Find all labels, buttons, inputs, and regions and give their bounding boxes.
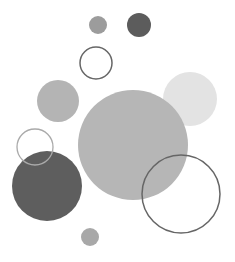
dark-big-left-circle xyxy=(12,151,82,221)
outline-top-circle xyxy=(80,47,112,79)
dark-top-circle xyxy=(127,13,151,37)
big-gray-center-circle xyxy=(78,90,188,200)
small-gray-top-circle xyxy=(89,16,107,34)
small-gray-bottom-circle xyxy=(81,228,99,246)
circles-illustration xyxy=(0,0,235,262)
medium-gray-left-circle xyxy=(37,80,79,122)
